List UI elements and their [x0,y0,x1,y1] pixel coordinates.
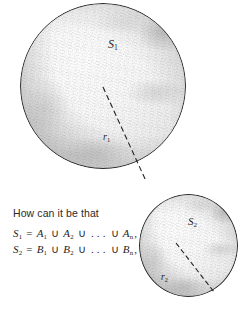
equation-s2-union3: ∪ [110,243,120,255]
equation-s2-term2-sub: 2 [70,249,74,256]
equation-s2: S2 = B1 ∪ B2 ∪ . . . ∪ Bn, [13,243,153,256]
equation-s2-punctuation: , [133,243,138,255]
sphere-s1 [20,3,186,169]
figure-canvas: S1 r1 S2 r2 How can it be that S1 = A1 ∪… [0,0,243,312]
equation-s1-term2-sub: 2 [70,233,74,240]
equation-s1-union3: ∪ [110,227,120,239]
equation-s1-lhs: S [13,227,19,239]
caption-question: How can it be that [13,207,153,219]
equation-s2-lhs: S [13,243,19,255]
equation-s2-termn-sub: n [130,249,134,256]
radius-r1-label: r1 [103,132,110,142]
equation-s1-term1-sub: 1 [44,233,48,240]
equation-s2-term1: B [37,243,44,255]
equation-s1-term1: A [37,227,44,239]
equation-s1-lhs-sub: 1 [19,233,23,240]
equation-s2-equals: = [25,243,33,255]
sphere-s1-outline [20,3,186,169]
equation-s2-union2: ∪ [77,243,87,255]
equation-s2-union1: ∪ [50,243,60,255]
equation-s1-punctuation: , [133,227,138,239]
equation-s1-termn-sub: n [130,233,134,240]
radius-r2-label: r2 [161,273,168,283]
sphere-s2-outline [139,194,238,297]
equation-s2-term1-sub: 1 [44,249,48,256]
equation-s1-equals: = [25,227,33,239]
sphere-s1-label: S1 [108,38,118,50]
equation-s1-union1: ∪ [50,227,60,239]
equation-s1-ellipsis: . . . [90,227,107,239]
equation-s2-termn: B [123,243,130,255]
equation-s2-ellipsis: . . . [90,243,107,255]
equation-s1-termn: A [123,227,130,239]
equation-s1: S1 = A1 ∪ A2 ∪ . . . ∪ An, [13,227,153,240]
sphere-s2-label: S2 [188,216,197,227]
caption-block: How can it be that S1 = A1 ∪ A2 ∪ . . . … [13,207,153,259]
sphere-s2 [139,194,238,297]
equation-s2-lhs-sub: 2 [19,249,23,256]
equation-s1-union2: ∪ [77,227,87,239]
